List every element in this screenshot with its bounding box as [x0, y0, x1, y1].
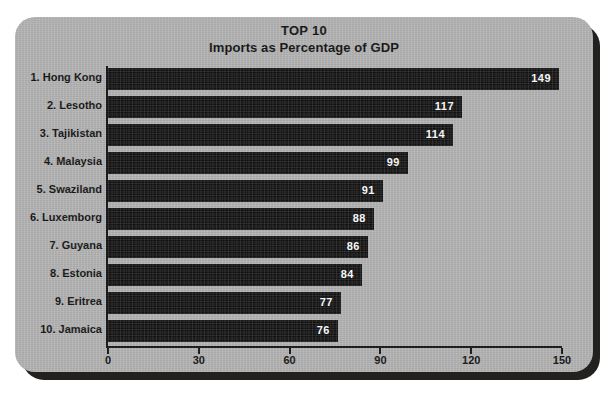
bar — [108, 236, 368, 258]
x-axis-tick-label: 150 — [553, 354, 571, 366]
bar-row: 1. Hong Kong149 — [15, 68, 593, 90]
bar-value-label: 84 — [341, 268, 354, 280]
bar-row: 3. Tajikistan114 — [15, 124, 593, 146]
bar-value-label: 91 — [362, 184, 375, 196]
bar-row: 8. Estonia84 — [15, 264, 593, 286]
x-axis-tick-label: 0 — [105, 354, 111, 366]
category-label: 2. Lesotho — [47, 99, 102, 111]
chart-panel: TOP 10 Imports as Percentage of GDP Perc… — [15, 17, 593, 372]
category-label: 10. Jamaica — [40, 323, 102, 335]
bar — [108, 292, 341, 314]
bar-row: 10. Jamaica76 — [15, 320, 593, 342]
category-label: 3. Tajikistan — [40, 127, 102, 139]
bar — [108, 124, 453, 146]
bar — [108, 152, 408, 174]
bar — [108, 180, 383, 202]
bar-row: 9. Eritrea77 — [15, 292, 593, 314]
category-label: 8. Estonia — [50, 267, 102, 279]
bar-value-label: 77 — [320, 296, 333, 308]
bar-value-label: 88 — [353, 212, 366, 224]
chart-canvas: TOP 10 Imports as Percentage of GDP Perc… — [0, 0, 614, 406]
bar — [108, 264, 362, 286]
bar-value-label: 149 — [531, 72, 551, 84]
bar-value-label: 117 — [435, 100, 454, 112]
plot-area: Percent 1. Hong Kong1492. Lesotho1173. T… — [15, 17, 593, 372]
x-axis-tick-label: 30 — [193, 354, 205, 366]
category-label: 7. Guyana — [49, 239, 102, 251]
category-label: 6. Luxemborg — [30, 211, 102, 223]
bar-value-label: 99 — [387, 156, 400, 168]
category-label: 4. Malaysia — [44, 155, 102, 167]
bar-row: 6. Luxemborg88 — [15, 208, 593, 230]
x-axis-tick-label: 90 — [374, 354, 386, 366]
bar — [108, 96, 462, 118]
x-axis-tick-label: 120 — [462, 354, 480, 366]
bar — [108, 68, 559, 90]
bar-row: 2. Lesotho117 — [15, 96, 593, 118]
bar — [108, 320, 338, 342]
bar-row: 4. Malaysia99 — [15, 152, 593, 174]
category-label: 5. Swaziland — [37, 183, 102, 195]
category-label: 1. Hong Kong — [31, 71, 103, 83]
bar-row: 5. Swaziland91 — [15, 180, 593, 202]
x-axis-tick-label: 60 — [283, 354, 295, 366]
x-axis-line — [106, 346, 562, 348]
bar-row: 7. Guyana86 — [15, 236, 593, 258]
bar-value-label: 86 — [347, 240, 360, 252]
category-label: 9. Eritrea — [55, 295, 102, 307]
bar-value-label: 114 — [426, 128, 445, 140]
bar — [108, 208, 374, 230]
bar-value-label: 76 — [317, 324, 330, 336]
